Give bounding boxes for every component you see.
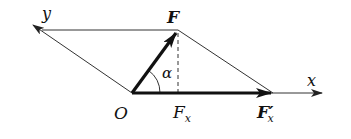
component-label: Fx [173,104,191,121]
force-vector-F [132,33,176,93]
angle-arc [149,70,161,93]
component-label-main: F [173,102,185,122]
component-label-sub: x [185,112,191,125]
component-prime-label-sub: x [268,112,274,125]
component-prime-label: F′x [257,104,274,121]
y-axis-line [33,25,132,93]
origin-label: O [114,105,128,122]
parallelogram-right-edge [178,30,273,93]
angle-label: α [162,66,172,81]
force-label: F [167,9,179,26]
x-axis-label: x [307,73,316,89]
y-axis-label: y [42,6,51,22]
